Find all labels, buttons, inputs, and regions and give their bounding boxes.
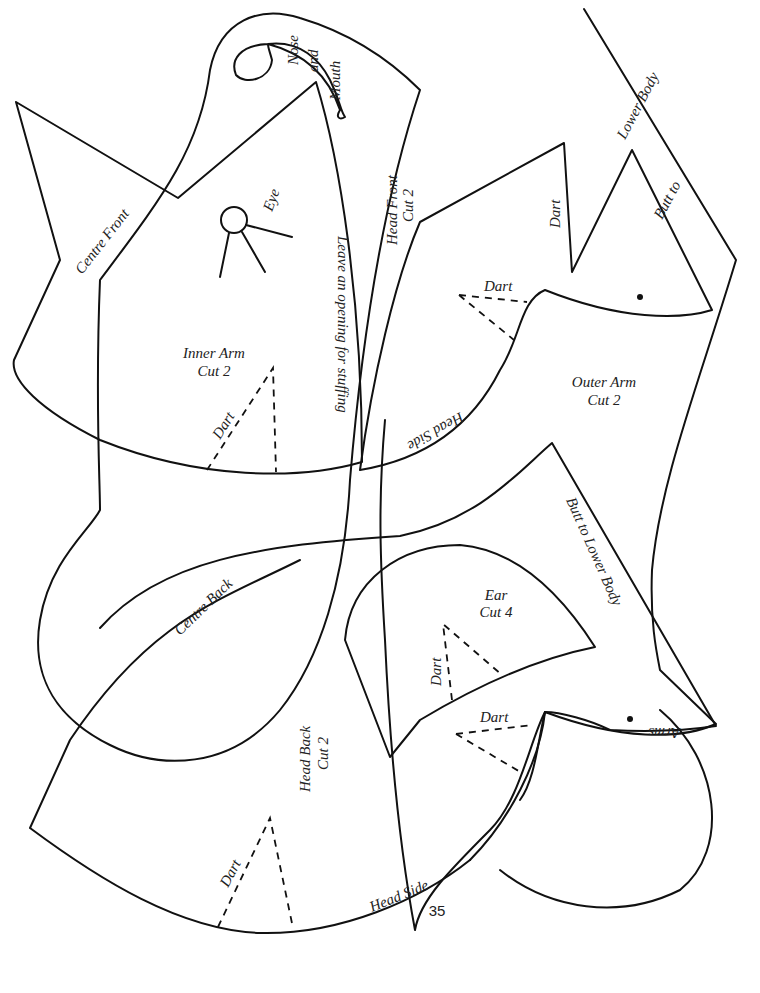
- ear-cut: Cut 4: [480, 604, 513, 620]
- head-back-outline: [30, 560, 470, 933]
- label-butt-to-lower-body: Butt to Lower Body: [563, 495, 625, 609]
- label-butt-to: Butt to: [651, 178, 684, 222]
- label-head-front-dart-mid: Dart: [483, 278, 513, 294]
- ear-title: Ear: [484, 587, 508, 603]
- sewing-pattern-sheet: Nose and Mouth Eye Centre Front Leave an…: [0, 0, 760, 993]
- inner-arm-title: Inner Arm: [182, 345, 245, 361]
- eye-lash: [220, 233, 229, 277]
- label-lower-body: Lower Body: [613, 69, 662, 142]
- head-front-cut: Cut 2: [400, 189, 416, 222]
- label-ear-dart: Dart: [428, 657, 444, 687]
- outer-arm-cut: Cut 2: [588, 392, 621, 408]
- label-mouth: Mouth: [327, 61, 343, 101]
- label-centre-front: Centre Front: [72, 205, 133, 277]
- eye-lash: [246, 225, 292, 237]
- label-centre-back: Centre Back: [171, 575, 236, 638]
- ear-dart: [443, 624, 502, 700]
- page-number: 35: [429, 902, 446, 919]
- label-eye: Eye: [259, 186, 282, 214]
- label-and: and: [305, 49, 321, 72]
- head-back-title: Head Back: [297, 725, 313, 793]
- inner-arm-cut: Cut 2: [198, 363, 231, 379]
- head-outline: [38, 14, 420, 761]
- label-arms: Arms: [648, 725, 681, 741]
- label-head-back-dart: Dart: [216, 856, 244, 890]
- label-opening-note: Leave an opening for stuffing: [335, 235, 351, 413]
- label-head-front-dart-top: Dart: [547, 199, 563, 229]
- label-body-dart: Dart: [479, 709, 509, 725]
- outer-arm-title: Outer Arm: [572, 374, 636, 390]
- body-dart: [456, 725, 533, 773]
- label-head-side-upper: Head Side: [404, 409, 467, 455]
- label-inner-arm-dart: Dart: [208, 408, 238, 442]
- eye-lash: [242, 232, 265, 272]
- eye-circle: [221, 207, 247, 233]
- inner-arm-outline: [14, 82, 362, 474]
- marker-dot: [627, 716, 633, 722]
- label-nose: Nose: [285, 35, 301, 66]
- head-back-cut: Cut 2: [315, 737, 331, 770]
- marker-dot: [637, 294, 643, 300]
- head-front-title: Head Front: [384, 174, 400, 246]
